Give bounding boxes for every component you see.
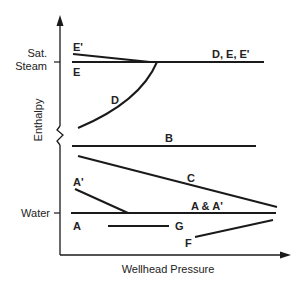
water-label: Water — [21, 207, 50, 219]
y-axis-title: Enthalpy — [32, 98, 44, 141]
x-axis-arrow-icon — [280, 252, 291, 259]
y-axis-arrow-icon — [57, 15, 64, 26]
y-axis — [54, 15, 64, 255]
curve-e-prime — [73, 54, 150, 62]
label-a-prime: A' — [73, 176, 84, 188]
enthalpy-pressure-diagram: Sat. Steam Water Enthalpy Wellhead Press… — [0, 0, 301, 288]
label-c: C — [187, 172, 195, 184]
curve-c — [78, 156, 277, 207]
label-d: D — [111, 94, 119, 106]
label-a-and-a-prime: A & A' — [191, 200, 223, 212]
label-b: B — [165, 132, 173, 144]
sat-steam-label-line2: Steam — [15, 60, 47, 72]
axis-break-icon — [57, 126, 63, 145]
label-a: A — [73, 220, 81, 232]
curve-f — [195, 220, 273, 237]
x-axis — [60, 252, 291, 259]
sat-steam-label-line1: Sat. — [27, 47, 47, 59]
label-e-prime: E' — [73, 41, 83, 53]
x-axis-title: Wellhead Pressure — [122, 263, 215, 275]
label-d-e-eprime: D, E, E' — [212, 48, 250, 60]
curve-a-prime — [75, 189, 128, 213]
label-e: E — [73, 66, 80, 78]
label-f: F — [185, 237, 192, 249]
label-g: G — [175, 220, 184, 232]
